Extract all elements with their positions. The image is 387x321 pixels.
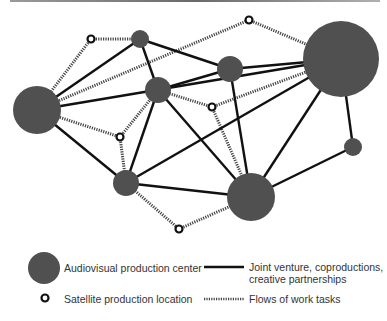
partnership-edge	[126, 90, 158, 183]
satellite-node	[176, 226, 183, 233]
production-center-node	[227, 173, 275, 221]
legend-flow-label: Flows of work tasks	[249, 293, 341, 305]
satellite-node	[117, 134, 124, 141]
nodes-layer	[13, 17, 379, 233]
satellite-node	[209, 104, 216, 111]
satellite-node	[246, 17, 253, 24]
production-center-node	[145, 77, 171, 103]
legend-satellite-label: Satellite production location	[64, 293, 192, 305]
production-center-node	[13, 86, 61, 134]
production-center-node	[217, 56, 243, 82]
production-center-node	[131, 30, 149, 48]
partnership-edge	[140, 39, 230, 69]
legend-satellite-symbol	[42, 295, 49, 302]
satellite-node	[88, 36, 95, 43]
legend-partnership-label-2: creative partnerships	[249, 273, 346, 285]
production-center-node	[113, 170, 139, 196]
production-center-node	[344, 138, 362, 156]
legend-center-label: Audiovisual production center	[64, 262, 202, 274]
legend-partnership-label-1: Joint venture, coproductions,	[249, 261, 383, 273]
legend-center-symbol	[28, 252, 60, 284]
production-center-node	[303, 21, 379, 97]
